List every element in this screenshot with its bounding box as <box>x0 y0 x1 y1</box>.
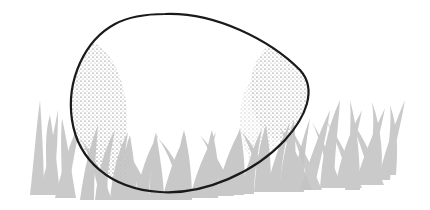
illustration-canvas <box>0 0 430 210</box>
egg-in-grass-illustration: egg resting in grass <box>0 0 430 210</box>
